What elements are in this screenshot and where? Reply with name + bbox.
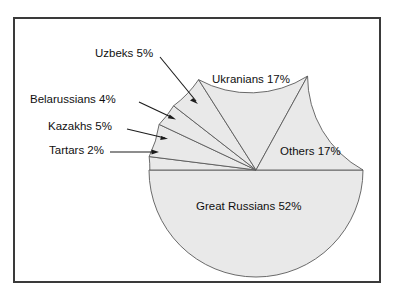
label-others: Others 17% <box>280 145 341 157</box>
leader-line-uzbeks <box>160 57 196 101</box>
label-uzbeks: Uzbeks 5% <box>95 47 153 59</box>
pie-slice-great-russians[interactable] <box>149 170 363 277</box>
label-kazakhs: Kazakhs 5% <box>48 120 112 132</box>
pie-chart-figure: Uzbeks 5% Belarussians 4% Kazakhs 5% Tar… <box>0 0 394 295</box>
leader-line-belarussians <box>139 102 173 118</box>
label-belarussians: Belarussians 4% <box>30 93 116 105</box>
label-ukranians: Ukranians 17% <box>212 73 290 85</box>
label-great-russians: Great Russians 52% <box>196 200 301 212</box>
label-tartars: Tartars 2% <box>49 144 104 156</box>
